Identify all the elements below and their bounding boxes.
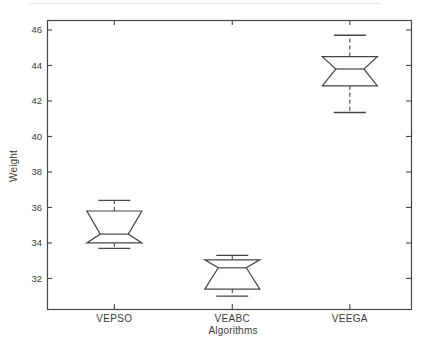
y-tick-label: 36	[31, 202, 42, 213]
y-tick-label: 34	[31, 237, 42, 248]
y-tick-label: 42	[31, 95, 42, 106]
y-tick-label: 38	[31, 166, 42, 177]
y-tick-label: 44	[31, 60, 42, 71]
boxplot-canvas: 3234363840424446VEPSOVEABCVEEGA	[0, 0, 435, 358]
category-label: VEPSO	[96, 313, 132, 324]
x-axis-title: Algorithms	[208, 325, 257, 336]
boxplot-figure: Weight 3234363840424446VEPSOVEABCVEEGA A…	[0, 0, 435, 358]
category-label: VEEGA	[332, 313, 368, 324]
y-tick-label: 32	[31, 273, 42, 284]
y-tick-label: 40	[31, 131, 42, 142]
y-tick-label: 46	[31, 24, 42, 35]
category-label: VEABC	[215, 313, 250, 324]
